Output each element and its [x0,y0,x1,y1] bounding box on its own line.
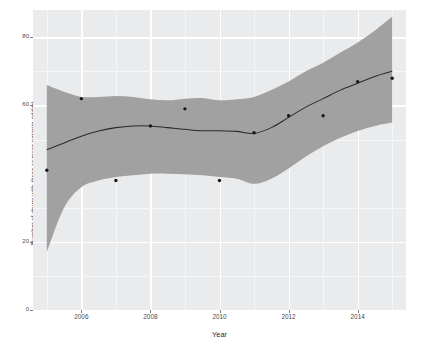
data-point [356,80,359,83]
data-point [252,131,255,134]
data-point [218,179,221,182]
data-point [45,169,48,172]
x-axis-tick-label: 2012 [269,313,309,320]
data-point [321,114,324,117]
data-point [183,107,186,110]
data-point [80,97,83,100]
x-axis-tick-mark [358,310,359,313]
x-axis-tick-label: 2006 [61,313,101,320]
y-axis-tick-mark [30,105,33,106]
x-axis-tick-mark [150,310,151,313]
confidence-band [47,17,392,252]
y-axis-tick-mark [30,37,33,38]
data-point [114,179,117,182]
data-point [390,76,393,79]
data-layer [33,10,406,310]
x-axis-tick-label: 2008 [130,313,170,320]
plot-panel [33,10,406,310]
x-axis-tick-label: 2014 [338,313,378,320]
y-axis-tick-label: 80 [22,33,29,39]
y-axis-tick-mark [30,310,33,311]
x-axis-tick-mark [220,310,221,313]
x-axis-title: Year [33,330,406,339]
chart-figure: Number of drugs with three or more paten… [0,0,434,349]
data-point [149,124,152,127]
y-axis-tick-label: 20 [22,238,29,244]
y-axis-tick-label: 60 [22,101,29,107]
x-axis-tick-mark [289,310,290,313]
x-axis-tick-mark [81,310,82,313]
data-point [287,114,290,117]
y-axis-tick-label: 0 [26,306,29,312]
y-axis-tick-mark [30,242,33,243]
x-axis-tick-label: 2010 [200,313,240,320]
